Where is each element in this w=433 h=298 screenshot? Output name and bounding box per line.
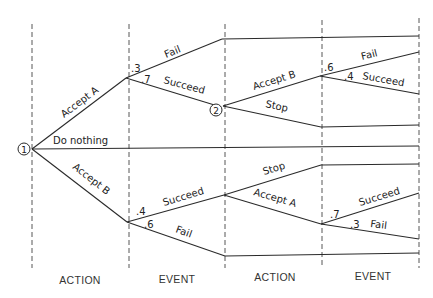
branch-accept-b (32, 149, 127, 222)
prob-fail-a-low: .3 (350, 219, 360, 230)
label-accept-b-2: Accept B (251, 68, 297, 91)
branch-stop-2-extend (321, 125, 419, 127)
node-label: 2 (213, 106, 219, 116)
decision-node-2: 2 (210, 104, 222, 116)
label-succeed-top: Succeed (162, 74, 206, 96)
branch-fail-top-extend (222, 36, 419, 39)
label-fail-top: Fail (163, 43, 182, 59)
column-label-event-2: EVENT (355, 270, 392, 282)
prob-succeed-low: .4 (136, 206, 146, 217)
prob-fail-top: .3 (131, 63, 141, 74)
prob-fail-low: .6 (144, 219, 154, 230)
column-label-event-1: EVENT (159, 273, 196, 285)
prob-succeed-b2: .4 (344, 71, 354, 82)
column-label-action-2: ACTION (254, 271, 295, 283)
label-stop-low: Stop (261, 160, 286, 177)
label-succeed-low: Succeed (161, 185, 205, 208)
stage-column-labels: ACTION EVENT ACTION EVENT (59, 270, 391, 286)
label-fail-low: Fail (174, 224, 193, 240)
decision-node-1: 1 (18, 143, 30, 155)
branch-stop-low-extend (321, 164, 419, 165)
prob-succeed-a-low: .7 (330, 209, 340, 220)
prob-fail-b2: .6 (324, 62, 334, 73)
node-label: 1 (21, 145, 27, 155)
label-succeed-a-low: Succeed (357, 185, 401, 208)
label-fail-a-low: Fail (370, 218, 388, 231)
label-fail-b2: Fail (360, 47, 379, 62)
column-label-action-1: ACTION (59, 274, 100, 286)
prob-succeed-top: .7 (141, 74, 151, 85)
label-succeed-b2: Succeed (362, 70, 406, 88)
branch-do-nothing (32, 146, 419, 149)
branches (32, 36, 419, 256)
label-do-nothing: Do nothing (53, 135, 108, 146)
label-stop-2: Stop (265, 98, 290, 113)
label-accept-b: Accept B (71, 161, 113, 197)
decision-tree-diagram: 1 2 Accept A Do nothing Accept B Fail Su… (0, 0, 433, 298)
